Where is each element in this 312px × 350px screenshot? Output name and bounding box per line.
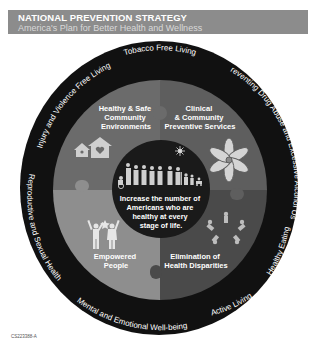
prevention-strategy-wheel: Tobacco Free Living Preventing Drug Abus…	[0, 0, 312, 350]
figure-code: CS223388-A	[11, 334, 37, 339]
sun-icon	[175, 146, 185, 156]
quadrant-label-health-disparities: Elimination of Health Disparities	[164, 252, 227, 270]
quadrant-label-community-environments: Healthy & Safe Community Environments	[99, 104, 154, 131]
